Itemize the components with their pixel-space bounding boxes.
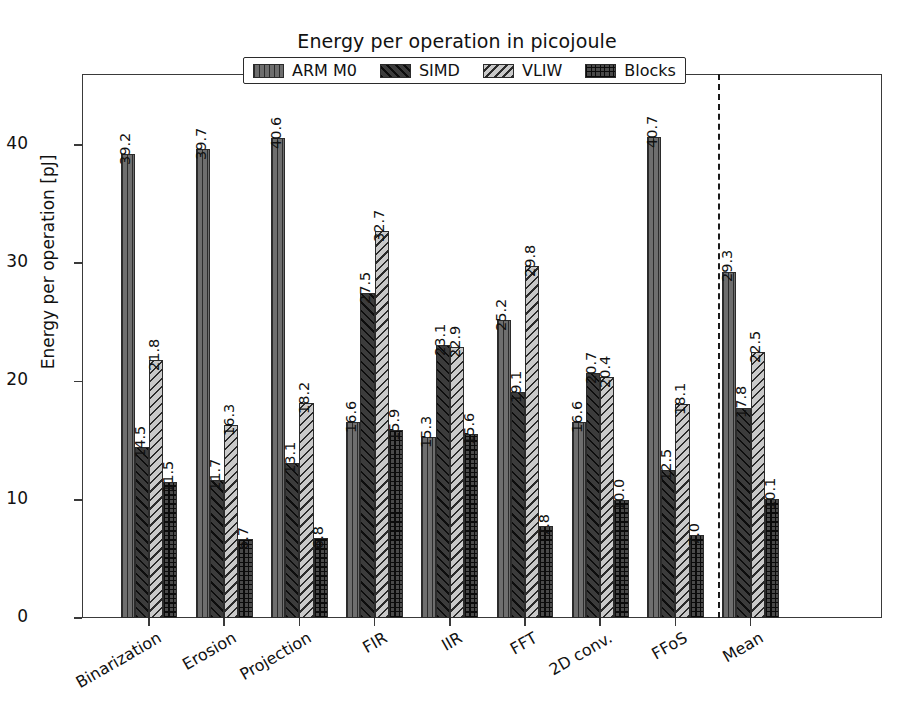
bar-value-label: 16.6 bbox=[569, 400, 585, 432]
y-tick-label: 30 bbox=[0, 251, 28, 271]
bar-value-label: 39.2 bbox=[117, 133, 133, 165]
x-tick-mark bbox=[449, 618, 451, 626]
bar bbox=[464, 434, 478, 618]
bar bbox=[614, 500, 628, 618]
bar-value-label: 15.9 bbox=[386, 409, 402, 441]
legend-swatch-icon bbox=[483, 64, 514, 78]
bar bbox=[210, 480, 224, 618]
bar bbox=[135, 447, 149, 618]
bar bbox=[163, 482, 177, 618]
y-tick-mark bbox=[74, 262, 82, 264]
bar-value-label: 7.0 bbox=[686, 523, 702, 546]
bar bbox=[736, 408, 750, 619]
x-tick-mark bbox=[299, 618, 301, 626]
bar-value-label: 16.6 bbox=[343, 400, 359, 432]
bar bbox=[224, 425, 238, 618]
bar-value-label: 25.2 bbox=[493, 299, 509, 331]
bar-value-label: 18.2 bbox=[296, 381, 312, 413]
bar-value-label: 12.5 bbox=[658, 449, 674, 481]
x-tick-mark bbox=[148, 618, 150, 626]
bar-value-label: 40.6 bbox=[268, 117, 284, 149]
bar-value-label: 10.1 bbox=[762, 477, 778, 509]
bar-value-label: 6.7 bbox=[235, 527, 251, 550]
bar bbox=[539, 526, 553, 618]
bar bbox=[586, 373, 600, 618]
chart-figure: Energy per operation in picojoule Energy… bbox=[0, 0, 914, 714]
bar bbox=[360, 293, 374, 618]
y-tick-mark bbox=[74, 617, 82, 619]
chart-title: Energy per operation in picojoule bbox=[0, 30, 914, 52]
bar-value-label: 17.8 bbox=[733, 386, 749, 418]
x-tick-mark bbox=[223, 618, 225, 626]
bar bbox=[722, 272, 736, 619]
bar bbox=[271, 138, 285, 618]
bar-value-label: 22.5 bbox=[747, 331, 763, 363]
y-tick-label: 40 bbox=[0, 133, 28, 153]
legend-item: ARM M0 bbox=[253, 61, 357, 80]
x-tick-mark bbox=[599, 618, 601, 626]
bar-value-label: 15.6 bbox=[461, 412, 477, 444]
bar bbox=[511, 392, 525, 618]
bar-value-label: 6.8 bbox=[310, 526, 326, 549]
bar bbox=[436, 345, 450, 618]
x-tick-mark bbox=[750, 618, 752, 626]
bar bbox=[675, 404, 689, 618]
x-tick-mark bbox=[374, 618, 376, 626]
bar-value-label: 20.4 bbox=[597, 355, 613, 387]
y-tick-mark bbox=[74, 499, 82, 501]
bar bbox=[690, 535, 704, 618]
y-tick-mark bbox=[74, 144, 82, 146]
bar bbox=[421, 437, 435, 618]
bar-value-label: 21.8 bbox=[146, 339, 162, 371]
bar bbox=[346, 422, 360, 618]
bar bbox=[121, 154, 135, 618]
legend-label: SIMD bbox=[419, 61, 460, 80]
bar-value-label: 15.3 bbox=[418, 416, 434, 448]
bar bbox=[661, 470, 675, 618]
legend-swatch-icon bbox=[253, 64, 284, 78]
bar bbox=[765, 499, 779, 618]
legend-item: VLIW bbox=[483, 61, 562, 80]
bar-value-label: 29.3 bbox=[719, 250, 735, 282]
bar bbox=[238, 539, 252, 618]
bar-value-label: 19.1 bbox=[508, 371, 524, 403]
bar bbox=[299, 403, 313, 618]
bar-value-label: 29.8 bbox=[522, 244, 538, 276]
bar-value-label: 23.1 bbox=[432, 324, 448, 356]
bar-value-label: 7.8 bbox=[536, 514, 552, 537]
y-tick-label: 10 bbox=[0, 488, 28, 508]
y-axis-label: Energy per operation [pJ] bbox=[38, 0, 58, 542]
y-tick-label: 0 bbox=[0, 606, 28, 626]
legend-swatch-icon bbox=[380, 64, 411, 78]
chart-legend: ARM M0SIMDVLIWBlocks bbox=[243, 57, 686, 84]
bar-value-label: 32.7 bbox=[371, 210, 387, 242]
bar-value-label: 16.3 bbox=[221, 404, 237, 436]
bar bbox=[525, 266, 539, 618]
x-tick-label: Binarization bbox=[16, 628, 164, 714]
mean-divider-line bbox=[718, 74, 720, 618]
legend-swatch-icon bbox=[585, 64, 616, 78]
y-tick-mark bbox=[74, 381, 82, 383]
bar-value-label: 14.5 bbox=[132, 425, 148, 457]
bar-value-label: 39.7 bbox=[193, 127, 209, 159]
legend-item: Blocks bbox=[585, 61, 676, 80]
bar-value-label: 27.5 bbox=[357, 271, 373, 303]
bar bbox=[497, 320, 511, 618]
bar bbox=[572, 422, 586, 618]
bar bbox=[314, 538, 328, 618]
bar-value-label: 11.5 bbox=[160, 461, 176, 493]
bar-value-label: 18.1 bbox=[672, 383, 688, 415]
x-tick-mark bbox=[524, 618, 526, 626]
bar-value-label: 11.7 bbox=[207, 458, 223, 490]
bar bbox=[389, 430, 403, 618]
legend-label: Blocks bbox=[624, 61, 676, 80]
legend-label: ARM M0 bbox=[292, 61, 357, 80]
legend-label: VLIW bbox=[522, 61, 562, 80]
plot-area: 39.214.521.811.539.711.716.36.740.613.11… bbox=[82, 74, 882, 618]
bar-value-label: 13.1 bbox=[282, 442, 298, 474]
bar bbox=[450, 347, 464, 618]
y-tick-label: 20 bbox=[0, 369, 28, 389]
bar-value-label: 40.7 bbox=[644, 115, 660, 147]
x-tick-mark bbox=[675, 618, 677, 626]
bar bbox=[196, 149, 210, 618]
